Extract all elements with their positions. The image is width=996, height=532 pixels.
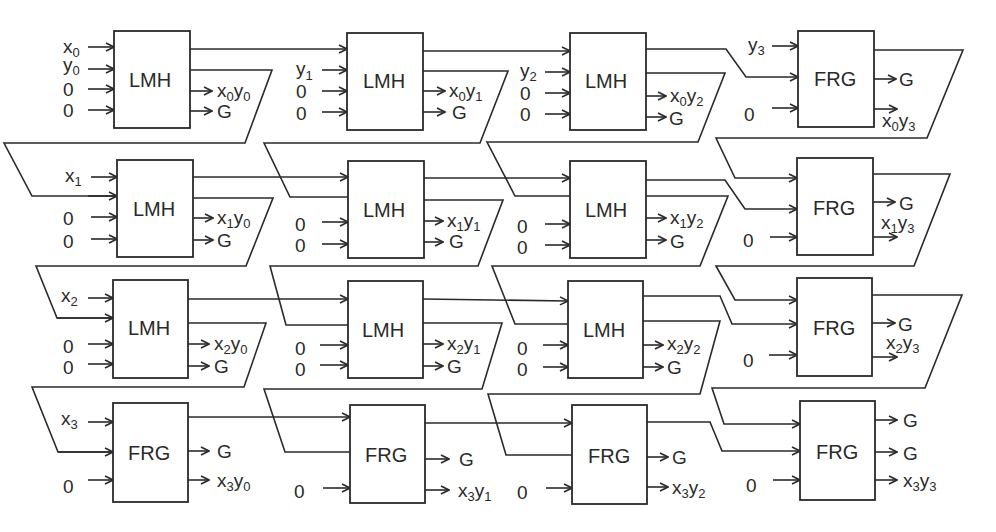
output-g: G <box>452 102 467 123</box>
cell-type-label: LMH <box>585 70 627 92</box>
output-x2y3: x2y3 <box>886 332 919 356</box>
output-x3y3: x3y3 <box>903 470 936 494</box>
input-zero: 0 <box>296 103 307 124</box>
output-g: G <box>899 69 914 90</box>
cell-type-label: LMH <box>363 199 405 221</box>
input-zero: 0 <box>517 359 528 380</box>
output-x2y1: x2y1 <box>447 333 480 357</box>
input-zero: 0 <box>295 235 306 256</box>
output-g: G <box>670 231 685 252</box>
input-zero: 0 <box>63 357 74 378</box>
wire <box>646 180 797 209</box>
output-x3y2: x3y2 <box>672 477 705 501</box>
input-zero: 0 <box>63 336 74 357</box>
output-g: G <box>449 231 464 252</box>
cell-type-label: LMH <box>133 198 175 220</box>
output-g: G <box>899 193 914 214</box>
input-zero: 0 <box>744 104 755 125</box>
cell-type-label: LMH <box>128 317 170 339</box>
input-zero: 0 <box>63 79 74 100</box>
cell-type-label: FRG <box>365 444 407 466</box>
input-y3: y3 <box>748 34 765 58</box>
input-zero: 0 <box>743 350 754 371</box>
input-zero: 0 <box>63 231 74 252</box>
cell-type-label: LMH <box>583 319 625 341</box>
input-zero: 0 <box>746 475 757 496</box>
input-y1: y1 <box>296 58 313 83</box>
output-x2y0: x2y0 <box>214 333 247 357</box>
output-g: G <box>447 356 462 377</box>
output-g: G <box>217 441 232 462</box>
output-g: G <box>459 449 474 470</box>
cell-type-label: FRG <box>816 441 858 463</box>
input-x1: x1 <box>65 165 82 189</box>
output-x0y2: x0y2 <box>670 85 703 109</box>
input-y2: y2 <box>520 60 537 84</box>
output-x0y1: x0y1 <box>449 80 482 104</box>
cell-type-label: LMH <box>363 70 405 92</box>
input-zero: 0 <box>517 237 528 258</box>
input-zero: 0 <box>517 338 528 359</box>
cell-type-label: FRG <box>128 442 170 464</box>
wire <box>647 422 800 451</box>
output-g: G <box>903 443 918 464</box>
output-g: G <box>217 230 232 251</box>
input-zero: 0 <box>520 83 531 104</box>
input-zero: 0 <box>517 482 528 503</box>
input-zero: 0 <box>295 214 306 235</box>
output-g: G <box>903 410 918 431</box>
input-zero: 0 <box>295 359 306 380</box>
output-x3y0: x3y0 <box>217 470 250 494</box>
output-x1y0: x1y0 <box>217 207 250 231</box>
output-g: G <box>667 357 682 378</box>
input-x2: x2 <box>61 285 78 309</box>
cell-type-label: FRG <box>813 317 855 339</box>
output-g: G <box>672 447 687 468</box>
input-zero: 0 <box>63 100 74 121</box>
input-zero: 0 <box>743 230 754 251</box>
cell-type-label: FRG <box>814 68 856 90</box>
input-x3: x3 <box>61 408 78 432</box>
input-zero: 0 <box>296 81 307 102</box>
wire <box>423 299 568 301</box>
input-zero: 0 <box>63 476 74 497</box>
array-multiplier-diagram: LMH LMH LMH FRG LMH LMH LMH FRG LMH LMH … <box>0 0 996 532</box>
output-x1y3: x1y3 <box>881 212 914 236</box>
output-g: G <box>669 108 684 129</box>
output-g: G <box>214 356 229 377</box>
output-g: G <box>217 101 232 122</box>
input-zero: 0 <box>63 208 74 229</box>
cell-type-label: LMH <box>362 319 404 341</box>
input-zero: 0 <box>517 216 528 237</box>
input-zero: 0 <box>294 481 305 502</box>
output-x0y3: x0y3 <box>882 110 915 134</box>
output-x1y2: x1y2 <box>670 207 703 231</box>
input-zero: 0 <box>295 338 306 359</box>
cell-type-label: FRG <box>588 445 630 467</box>
cell-type-label: LMH <box>585 199 627 221</box>
cell-type-label: LMH <box>129 69 171 91</box>
cell-type-label: FRG <box>813 197 855 219</box>
output-x3y1: x3y1 <box>458 480 491 504</box>
output-x2y2: x2y2 <box>667 333 700 357</box>
input-zero: 0 <box>520 104 531 125</box>
